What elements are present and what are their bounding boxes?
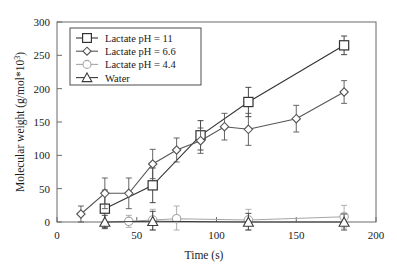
x-tick-label: 50 [131,229,143,241]
y-tick-label: 0 [45,216,51,228]
marker-circle [83,60,91,68]
marker-square [340,41,349,50]
legend-label: Lactate pH = 6.6 [105,46,176,57]
legend-entry: Lactate pH = 11 [76,33,173,44]
y-tick-label: 100 [34,149,51,161]
marker-square [83,34,92,43]
molecular-weight-vs-time-chart: 050100150200250300 050100150200 Time (s)… [0,0,397,270]
y-tick-label: 50 [39,183,51,195]
y-tick-label: 250 [34,49,51,61]
x-tick-label: 100 [208,229,225,241]
x-tick-label: 200 [368,229,385,241]
y-axis-title: Molecular weight (g/mol*103) [13,52,27,192]
legend: Lactate pH = 11Lactate pH = 6.6Lactate p… [70,28,201,85]
y-axis-title-main: Molecular weight (g/mol*10 [14,60,27,192]
marker-square [148,181,157,190]
y-tick-label: 300 [34,16,51,28]
y-tick-label: 200 [34,83,51,95]
legend-label: Lactate pH = 4.4 [105,59,176,70]
y-axis-title-close: ) [14,52,27,56]
svg-text:Molecular weight (g/mol*103): Molecular weight (g/mol*103) [13,52,27,192]
legend-label: Lactate pH = 11 [105,33,173,44]
legend-label: Water [105,73,130,84]
x-axis-title: Time (s) [185,249,224,262]
y-tick-label: 150 [34,116,51,128]
x-tick-label: 0 [54,229,60,241]
marker-square [244,97,253,106]
chart-figure: 050100150200250300 050100150200 Time (s)… [0,0,397,270]
x-tick-label: 150 [288,229,305,241]
